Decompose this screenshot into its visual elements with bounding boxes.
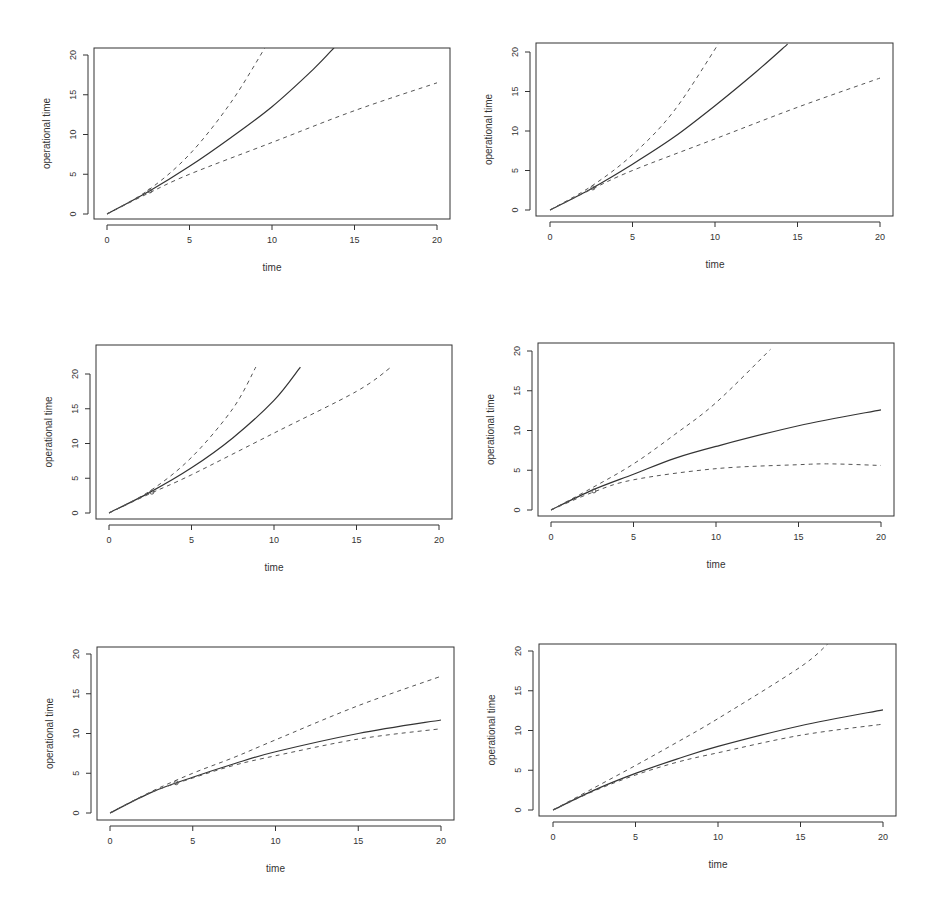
y-tick-label: 0 <box>512 507 522 512</box>
x-axis-label: time <box>706 259 725 270</box>
plot-panel-row2-left: 05101520 05101520 time operational time <box>0 320 460 614</box>
plot-svg: 05101520 05101520 time operational time <box>0 320 460 610</box>
series-line-estimate <box>110 720 441 813</box>
x-axis: 05101520 <box>547 222 885 242</box>
y-axis: 05101520 <box>68 50 88 217</box>
y-tick-label: 5 <box>70 476 80 481</box>
x-tick-label: 5 <box>190 836 195 846</box>
y-tick-label: 5 <box>68 172 78 177</box>
plot-panel-row1-left: 05101520 05101520 time operational time <box>0 0 460 294</box>
x-tick-label: 5 <box>631 532 636 542</box>
y-axis-label: operational time <box>483 93 494 165</box>
x-tick-label: 15 <box>353 836 363 846</box>
y-tick-label: 5 <box>512 468 522 473</box>
y-tick-label: 10 <box>512 425 522 435</box>
x-axis: 05101520 <box>548 522 886 542</box>
x-tick-label: 15 <box>349 235 359 245</box>
y-tick-label: 10 <box>513 725 523 735</box>
plot-panel-row1-right: 05101520 05101520 time operational time <box>460 0 920 294</box>
series-line-lower <box>110 729 441 813</box>
plot-lines <box>107 47 437 214</box>
y-axis: 05101520 <box>510 47 530 213</box>
y-tick-label: 20 <box>512 346 522 356</box>
series-line-estimate <box>109 367 300 513</box>
y-tick-label: 15 <box>513 686 523 696</box>
x-tick-label: 5 <box>633 832 638 842</box>
x-tick-label: 0 <box>104 235 109 245</box>
x-axis: 05101520 <box>106 525 444 545</box>
y-tick-label: 20 <box>513 646 523 656</box>
plot-svg: 05101520 05101520 time operational time <box>460 0 920 290</box>
series-line-estimate <box>553 710 883 810</box>
plot-lines <box>553 643 883 810</box>
y-tick-label: 15 <box>512 386 522 396</box>
series-line-upper <box>110 676 441 813</box>
plot-lines <box>550 44 880 210</box>
y-axis: 05101520 <box>70 369 90 516</box>
x-tick-label: 15 <box>793 532 803 542</box>
x-tick-label: 15 <box>351 535 361 545</box>
plot-panel-row3-left: 05101520 05101520 time operational time <box>0 620 460 901</box>
y-tick-label: 15 <box>70 404 80 414</box>
y-tick-label: 5 <box>513 768 523 773</box>
x-axis-label: time <box>266 863 285 874</box>
y-axis-label: operational time <box>44 697 55 769</box>
y-axis: 05101520 <box>513 646 533 813</box>
y-axis: 05101520 <box>512 346 532 513</box>
y-tick-label: 10 <box>68 129 78 139</box>
y-tick-label: 10 <box>70 438 80 448</box>
x-tick-label: 20 <box>436 836 446 846</box>
plot-lines <box>110 676 441 813</box>
x-tick-label: 0 <box>107 836 112 846</box>
x-tick-label: 10 <box>267 235 277 245</box>
plot-lines <box>109 367 391 513</box>
x-tick-label: 5 <box>630 232 635 242</box>
y-tick-label: 0 <box>510 207 520 212</box>
x-tick-label: 0 <box>550 832 555 842</box>
x-axis: 05101520 <box>104 225 442 245</box>
y-axis-label: operational time <box>486 694 497 766</box>
y-tick-label: 10 <box>71 728 81 738</box>
x-tick-label: 20 <box>875 232 885 242</box>
x-tick-label: 10 <box>710 232 720 242</box>
plot-frame <box>539 644 896 816</box>
series-line-estimate <box>551 410 881 510</box>
x-axis: 05101520 <box>107 826 446 846</box>
plot-svg: 05101520 05101520 time operational time <box>460 620 920 901</box>
x-tick-label: 10 <box>269 535 279 545</box>
plot-panel-row2-right: 05101520 05101520 time operational time <box>460 320 920 614</box>
x-tick-label: 10 <box>713 832 723 842</box>
series-line-upper <box>551 349 770 510</box>
x-axis-label: time <box>709 859 728 870</box>
series-line-lower <box>550 78 880 210</box>
y-tick-label: 5 <box>510 168 520 173</box>
y-tick-label: 0 <box>68 211 78 216</box>
series-line-estimate <box>550 44 788 210</box>
x-tick-label: 5 <box>187 235 192 245</box>
y-tick-label: 10 <box>510 126 520 136</box>
x-axis: 05101520 <box>550 822 888 842</box>
x-tick-label: 0 <box>548 532 553 542</box>
x-tick-label: 20 <box>878 832 888 842</box>
plot-frame <box>94 48 450 219</box>
x-tick-label: 0 <box>106 535 111 545</box>
y-tick-label: 0 <box>71 810 81 815</box>
series-line-upper <box>109 367 256 513</box>
y-axis: 05101520 <box>71 649 91 816</box>
series-line-lower <box>553 724 883 810</box>
x-axis-label: time <box>263 262 282 273</box>
y-tick-label: 20 <box>510 47 520 57</box>
y-tick-label: 5 <box>71 771 81 776</box>
plot-svg: 05101520 05101520 time operational time <box>460 320 920 610</box>
plot-svg: 05101520 05101520 time operational time <box>0 0 460 290</box>
x-tick-label: 10 <box>711 532 721 542</box>
y-tick-label: 0 <box>70 510 80 515</box>
series-line-lower <box>107 83 437 214</box>
x-tick-label: 15 <box>795 832 805 842</box>
x-tick-label: 15 <box>792 232 802 242</box>
x-tick-label: 0 <box>547 232 552 242</box>
plot-panel-row3-right: 05101520 05101520 time operational time <box>460 620 920 901</box>
y-tick-label: 20 <box>68 50 78 60</box>
y-tick-label: 20 <box>70 369 80 379</box>
x-tick-label: 20 <box>434 535 444 545</box>
